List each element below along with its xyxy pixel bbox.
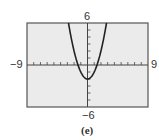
x-min-label: −9 — [10, 59, 23, 70]
figure-caption: (e) — [81, 124, 93, 136]
x-max-label: 9 — [151, 59, 157, 70]
y-min-label: −6 — [82, 110, 95, 121]
plot-area — [0, 0, 159, 140]
y-max-label: 6 — [84, 11, 90, 22]
graph-figure: 6 −6 −9 9 (e) — [0, 0, 159, 140]
